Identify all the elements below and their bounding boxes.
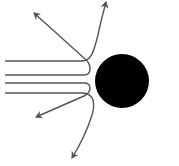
trajectory-deflect-down-steep <box>5 93 94 158</box>
trajectory-backscatter-down <box>5 83 90 117</box>
trajectories-group <box>5 2 106 158</box>
scattering-diagram <box>0 0 179 166</box>
trajectory-backscatter-up <box>5 13 90 75</box>
diagram-svg <box>0 0 179 166</box>
nucleus-circle <box>95 54 149 108</box>
